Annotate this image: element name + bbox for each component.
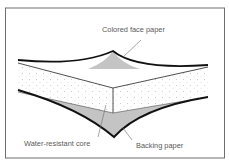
leader-backing-paper bbox=[123, 128, 132, 140]
label-core: Water-resistant core bbox=[24, 140, 90, 147]
label-face-paper: Colored face paper bbox=[102, 26, 165, 33]
leader-face-paper bbox=[122, 40, 141, 58]
label-backing-paper: Backing paper bbox=[136, 142, 183, 149]
